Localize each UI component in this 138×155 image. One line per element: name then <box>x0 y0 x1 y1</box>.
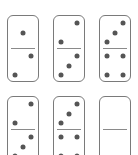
pip <box>67 63 72 68</box>
domino-5-top-half <box>54 97 84 130</box>
pip <box>75 54 80 59</box>
domino-2-top-half <box>54 16 84 49</box>
pip <box>75 135 80 140</box>
pip <box>58 72 63 77</box>
pip <box>75 21 80 26</box>
domino-2 <box>53 15 85 82</box>
domino-puzzle <box>0 0 138 155</box>
pip <box>58 39 63 44</box>
pip <box>29 102 34 107</box>
domino-4-bottom-half <box>8 130 38 155</box>
pip <box>104 54 109 59</box>
pip <box>58 135 63 140</box>
domino-4-top-half <box>8 97 38 130</box>
pip <box>121 72 126 77</box>
pip <box>12 120 17 125</box>
pip <box>104 72 109 77</box>
pip <box>12 153 17 155</box>
pip <box>29 54 34 59</box>
pip <box>104 39 109 44</box>
domino-5-bottom-half <box>54 130 84 155</box>
domino-3 <box>99 15 131 82</box>
domino-5 <box>53 96 85 155</box>
domino-1-top-half <box>8 16 38 49</box>
domino-3-bottom-half <box>100 49 130 82</box>
domino-1-bottom-half <box>8 49 38 82</box>
pip <box>29 135 34 140</box>
pip <box>12 72 17 77</box>
pip <box>67 111 72 116</box>
pip <box>113 30 118 35</box>
pip <box>21 144 26 149</box>
pip <box>121 21 126 26</box>
domino-2-bottom-half <box>54 49 84 82</box>
pip <box>121 54 126 59</box>
domino-3-top-half <box>100 16 130 49</box>
pip <box>75 102 80 107</box>
domino-6-bottom-half <box>100 130 130 155</box>
domino-6-top-half <box>100 97 130 130</box>
domino-6-blank <box>99 96 131 155</box>
pip <box>75 153 80 155</box>
domino-1 <box>7 15 39 82</box>
pip <box>21 30 26 35</box>
pip <box>58 153 63 155</box>
domino-4 <box>7 96 39 155</box>
pip <box>58 120 63 125</box>
